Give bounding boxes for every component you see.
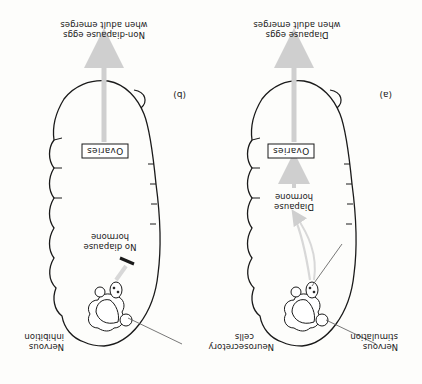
eggs-label-b-2: when adult emerges [60, 20, 148, 30]
leader-nervous-b [128, 318, 182, 344]
brain-complex-a [284, 282, 328, 331]
panel-label-a: (a) [379, 90, 392, 100]
leader-neurosecretory-a [312, 244, 342, 286]
ovaries-label-a: Ovaries [273, 146, 309, 156]
eggs-label-a-1: Diapause eggs [265, 30, 328, 40]
eggs-label-b-1: Non-diapause eggs [63, 30, 145, 40]
neuro-label-a-2: cells [234, 332, 254, 342]
nervous-label-a-1: Nervous [362, 342, 398, 352]
brain-complex-b [88, 282, 132, 331]
hormone-label-b-2: hormone [91, 232, 129, 242]
block-bar-icon [120, 258, 134, 264]
hormone-label-a-1: Diapause [274, 202, 314, 212]
panel-a: Diapause hormone Ovaries Diapause eggs w… [209, 20, 398, 352]
nervous-label-b-1: Nervous [28, 342, 64, 352]
hormone-label-b-1: No diapause [84, 242, 137, 252]
hormone-label-a-2: hormone [275, 192, 313, 202]
diapause-figure-rotated: Diapause hormone Ovaries Diapause eggs w… [0, 0, 422, 384]
nervous-label-a-2: stimulation [350, 332, 398, 342]
eggs-label-a-2: when adult emerges [253, 20, 341, 30]
panel-b: No diapause hormone Ovaries Non-diapause… [24, 20, 186, 352]
blocked-hormone-path-b [116, 266, 126, 280]
diagram-stage: Diapause hormone Ovaries Diapause eggs w… [0, 0, 422, 384]
nervous-label-b-2: inhibition [24, 332, 64, 342]
panel-label-b: (b) [173, 90, 186, 100]
ovaries-label-b: Ovaries [87, 146, 123, 156]
neuro-label-a-1: Neurosecretory [209, 342, 274, 352]
